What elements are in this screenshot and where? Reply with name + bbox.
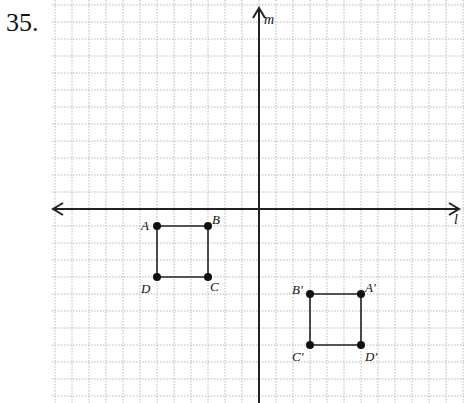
point-label: C′ [292, 349, 304, 364]
point-a [153, 222, 161, 230]
point-c-prime [306, 341, 314, 349]
point-b-prime [306, 290, 314, 298]
point-label: A [140, 218, 149, 233]
point-d-prime [357, 341, 365, 349]
point-label: D [140, 281, 151, 296]
point-b [204, 222, 212, 230]
axis-label-l: l [454, 212, 458, 227]
axis-label-m: m [264, 12, 274, 27]
point-label: B [212, 212, 220, 227]
figure-abcd-outline [157, 226, 208, 277]
point-label: B′ [292, 282, 303, 297]
point-a-prime [357, 290, 365, 298]
point-label: D′ [364, 349, 377, 364]
figure-abcd-outline [310, 294, 361, 345]
point-label: A′ [364, 280, 376, 295]
point-label: C [210, 279, 219, 294]
coordinate-grid: m l ABCDA′B′C′D′ [0, 0, 464, 403]
point-d [153, 273, 161, 281]
axes: m l [53, 8, 459, 403]
